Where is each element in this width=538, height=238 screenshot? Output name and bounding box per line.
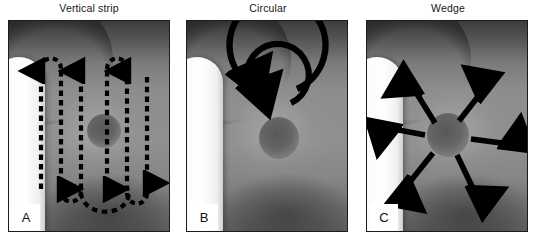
figure-root: Vertical strip	[0, 0, 538, 238]
panel-image-a: A	[8, 20, 170, 232]
areola-b	[259, 117, 299, 159]
areola-a	[87, 114, 121, 148]
panel-circular: Circular	[178, 0, 358, 238]
panel-image-b: B	[186, 20, 348, 232]
panel-letter-c: C	[370, 204, 398, 230]
panel-wedge: Wedge	[358, 0, 538, 238]
panel-letter-a: A	[12, 204, 40, 230]
areola-c	[427, 113, 469, 157]
panel-letter-b: B	[190, 204, 218, 230]
panel-title-a: Vertical strip	[0, 2, 178, 14]
panel-vertical-strip: Vertical strip	[0, 0, 178, 238]
panel-title-b: Circular	[178, 2, 358, 14]
panel-image-c: C	[366, 20, 528, 232]
panel-title-c: Wedge	[358, 2, 538, 14]
